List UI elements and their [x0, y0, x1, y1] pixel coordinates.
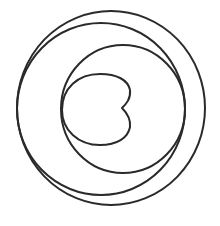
diagram-canvas: [0, 0, 220, 226]
background: [0, 0, 220, 226]
